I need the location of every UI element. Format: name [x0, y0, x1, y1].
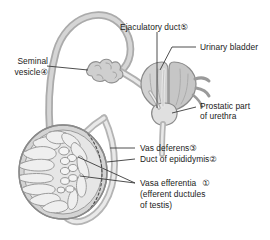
label-prostatic-part-line2: of urethra: [200, 111, 236, 121]
label-seminal-vesicle-line1: Seminal: [17, 56, 48, 66]
label-vasa-efferentia-sub1: (efferent ductules: [140, 189, 205, 199]
label-vasa-efferentia-number: ①: [196, 178, 210, 188]
label-duct-of-epididymis: Duct of epididymis②: [140, 154, 217, 164]
seminal-vesicle: [87, 59, 123, 83]
label-urinary-bladder: Urinary bladder: [200, 42, 258, 52]
label-vas-deferens: Vas deferens③: [140, 143, 197, 153]
urinary-bladder: [141, 62, 209, 110]
label-ejaculatory-duct-number: ⑤: [180, 22, 188, 32]
label-vasa-efferentia-sub2: of testis): [140, 200, 172, 210]
testis: [18, 125, 107, 219]
label-vasa-efferentia: Vasa efferentia①: [140, 178, 210, 188]
label-ejaculatory-duct: Ejaculatory duct⑤: [120, 22, 188, 32]
label-vas-deferens-text: Vas deferens: [140, 143, 189, 153]
label-seminal-vesicle-line2-row: vesicle④: [4, 67, 48, 77]
label-vas-deferens-number: ③: [189, 143, 197, 153]
label-seminal-vesicle: Seminal: [4, 56, 48, 66]
label-vasa-efferentia-text: Vasa efferentia: [140, 178, 196, 188]
label-seminal-vesicle-number: ④: [40, 67, 48, 77]
label-duct-of-epididymis-number: ②: [209, 154, 217, 164]
label-ejaculatory-duct-text: Ejaculatory duct: [120, 22, 180, 32]
label-seminal-vesicle-line2: vesicle: [14, 67, 40, 77]
label-duct-of-epididymis-text: Duct of epididymis: [140, 154, 209, 164]
label-prostatic-part: Prostatic part: [200, 101, 250, 111]
